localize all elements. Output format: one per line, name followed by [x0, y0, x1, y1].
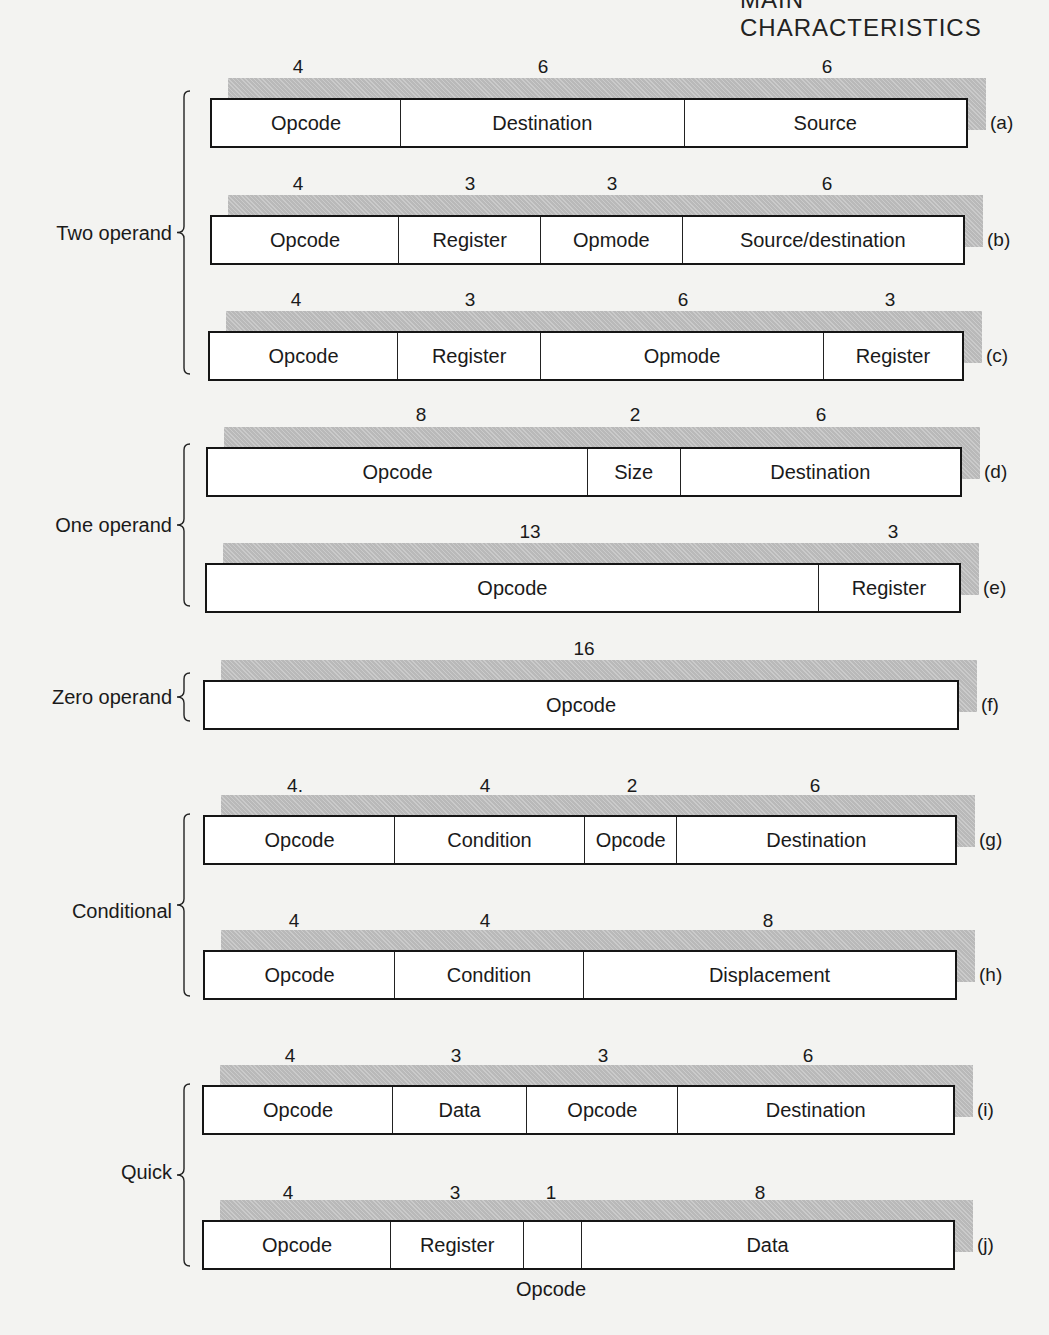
instruction-word-box: OpcodeSizeDestination [206, 447, 962, 497]
format-tag: (f) [981, 694, 999, 716]
field-opmode: Opmode [541, 217, 682, 263]
curly-brace-icon [176, 1083, 190, 1267]
field-opcode: Opcode [585, 817, 678, 863]
field-displacement: Displacement [584, 952, 955, 998]
bit-width-label: 2 [630, 404, 641, 426]
bit-width-label: 6 [816, 404, 827, 426]
group-label: Zero operand [0, 686, 172, 709]
bit-width-label: 3 [465, 173, 476, 195]
bit-width-label: 8 [755, 1182, 766, 1204]
curly-brace-icon [176, 90, 190, 375]
field-opmode: Opmode [541, 333, 824, 379]
bit-width-label: 6 [822, 56, 833, 78]
field-data: Data [393, 1087, 527, 1133]
bit-width-label: 2 [627, 775, 638, 797]
format-tag: (i) [977, 1099, 994, 1121]
field-opcode: Opcode [205, 817, 395, 863]
instruction-word-box: OpcodeRegisterOpmodeRegister [208, 331, 964, 381]
bit-width-label: 16 [573, 638, 594, 660]
bit-width-label: 6 [678, 289, 689, 311]
bit-width-label: 4 [480, 910, 491, 932]
field-condition: Condition [395, 817, 585, 863]
bit-width-label: 6 [803, 1045, 814, 1067]
bit-width-label: 4 [285, 1045, 296, 1067]
field-size: Size [588, 449, 681, 495]
field-opcode: Opcode [205, 682, 957, 728]
field-opcode: Opcode [210, 333, 398, 379]
format-tag: (c) [986, 345, 1008, 367]
bit-width-label: 4 [293, 56, 304, 78]
instruction-word-box: OpcodeConditionDisplacement [203, 950, 957, 1000]
bit-width-label: 6 [810, 775, 821, 797]
field-opcode-bit [524, 1222, 582, 1268]
field-register: Register [399, 217, 541, 263]
field-register: Register [819, 565, 959, 611]
field-destination: Destination [677, 817, 955, 863]
bit-width-label: 4 [283, 1182, 294, 1204]
instruction-word-box: OpcodeRegisterData [202, 1220, 955, 1270]
field-source: Source [685, 100, 967, 146]
field-register: Register [391, 1222, 524, 1268]
bit-width-label: 8 [763, 910, 774, 932]
curly-brace-icon [176, 672, 190, 722]
curly-brace-icon [176, 443, 190, 607]
instruction-word-box: OpcodeRegisterOpmodeSource/destination [210, 215, 965, 265]
field-source-destination: Source/destination [683, 217, 964, 263]
bit-width-label: 3 [451, 1045, 462, 1067]
page-header: MAIN CHARACTERISTICS [740, 0, 1049, 42]
bit-width-label: 6 [822, 173, 833, 195]
field-register: Register [398, 333, 541, 379]
bit-width-label: 3 [450, 1182, 461, 1204]
field-destination: Destination [401, 100, 685, 146]
bit-width-label: 3 [598, 1045, 609, 1067]
field-data: Data [582, 1222, 953, 1268]
instruction-word-box: OpcodeDataOpcodeDestination [202, 1085, 955, 1135]
field-destination: Destination [678, 1087, 953, 1133]
bit-width-label: 4 [293, 173, 304, 195]
format-tag: (g) [979, 829, 1002, 851]
instruction-word-box: OpcodeRegister [205, 563, 961, 613]
field-opcode: Opcode [527, 1087, 678, 1133]
group-label: One operand [0, 514, 172, 537]
instruction-word-box: OpcodeConditionOpcodeDestination [203, 815, 957, 865]
bit-width-label: 4 [291, 289, 302, 311]
field-opcode: Opcode [212, 100, 401, 146]
bit-width-label: 3 [885, 289, 896, 311]
format-tag: (h) [979, 964, 1002, 986]
format-tag: (b) [987, 229, 1010, 251]
format-tag: (e) [983, 577, 1006, 599]
bit-width-label: 8 [416, 404, 427, 426]
bit-width-label: 4 [289, 910, 300, 932]
field-opcode: Opcode [204, 1087, 393, 1133]
field-register: Register [824, 333, 962, 379]
bit-width-label: 3 [465, 289, 476, 311]
format-tag: (d) [984, 461, 1007, 483]
bit-width-label: 1 [546, 1182, 557, 1204]
group-label: Two operand [0, 222, 172, 245]
field-condition: Condition [395, 952, 584, 998]
curly-brace-icon [176, 813, 190, 997]
bit-width-label: 3 [888, 521, 899, 543]
field-destination: Destination [681, 449, 961, 495]
opcode-bit-label: Opcode [516, 1278, 586, 1301]
instruction-word-box: Opcode [203, 680, 959, 730]
bit-width-label: 13 [519, 521, 540, 543]
bit-width-label: 4 [480, 775, 491, 797]
field-opcode: Opcode [208, 449, 588, 495]
format-tag: (a) [990, 112, 1013, 134]
bit-width-label: 6 [538, 56, 549, 78]
bit-width-label: 4. [287, 775, 303, 797]
field-opcode: Opcode [212, 217, 399, 263]
instruction-word-box: OpcodeDestinationSource [210, 98, 968, 148]
format-tag: (j) [977, 1234, 994, 1256]
bit-width-label: 3 [607, 173, 618, 195]
group-label: Quick [0, 1161, 172, 1184]
field-opcode: Opcode [205, 952, 395, 998]
field-opcode: Opcode [207, 565, 819, 611]
group-label: Conditional [0, 900, 172, 923]
field-opcode: Opcode [204, 1222, 391, 1268]
